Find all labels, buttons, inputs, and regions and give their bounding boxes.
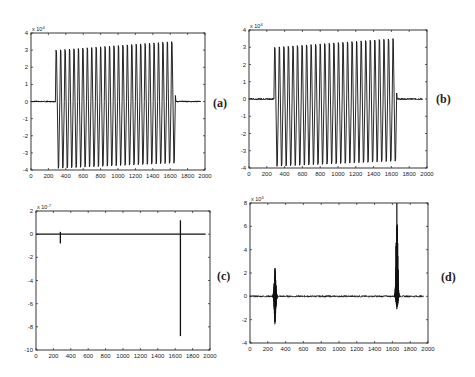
y-tick-label: -2: [242, 317, 248, 323]
x-tick-label: 1000: [332, 346, 346, 352]
x-tick-label: 2000: [421, 346, 435, 352]
chart-panel-d: 0200400600800100012001400160018002000-4-…: [0, 0, 475, 377]
y-tick-label: 0: [244, 293, 248, 299]
x-tick-label: 1600: [386, 346, 400, 352]
chart-d-plot: 0200400600800100012001400160018002000-4-…: [0, 0, 475, 377]
x-tick-label: 1400: [368, 346, 382, 352]
y-tick-label: 4: [244, 247, 248, 253]
x-tick-label: 200: [263, 346, 274, 352]
y-tick-label: -4: [242, 340, 248, 346]
axes-box: [250, 203, 428, 343]
x-tick-label: 0: [248, 346, 252, 352]
y-tick-label: 6: [244, 223, 248, 229]
x-tick-label: 400: [281, 346, 292, 352]
x-tick-label: 1200: [350, 346, 364, 352]
y-tick-label: 8: [244, 200, 248, 206]
y-tick-label: 2: [244, 270, 248, 276]
panel-label-d: (d): [441, 270, 456, 285]
x-tick-label: 600: [298, 346, 309, 352]
x-tick-label: 1800: [404, 346, 418, 352]
y-exponent-label: x 104: [251, 195, 264, 203]
x-tick-label: 800: [316, 346, 327, 352]
